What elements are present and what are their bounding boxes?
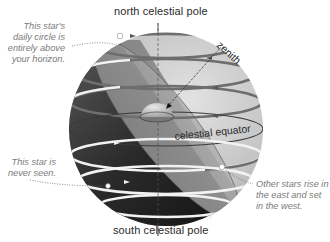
circumpolar-note: This star's daily circle is entirely abo…	[3, 21, 65, 65]
south-celestial-pole-label: south celestial pole	[113, 224, 209, 236]
north-celestial-pole-label: north celestial pole	[114, 5, 208, 17]
rise-set-note: Other stars rise in the east and set in …	[256, 179, 330, 212]
circumpolar-star	[117, 33, 123, 39]
celestial-sphere-diagram: zenith celestial equator north celestial…	[0, 0, 330, 242]
leader-circumpolar	[72, 43, 117, 46]
never-seen-star	[106, 184, 111, 189]
rising-setting-star	[219, 164, 225, 170]
never-seen-note: This star is never seen.	[6, 157, 56, 179]
